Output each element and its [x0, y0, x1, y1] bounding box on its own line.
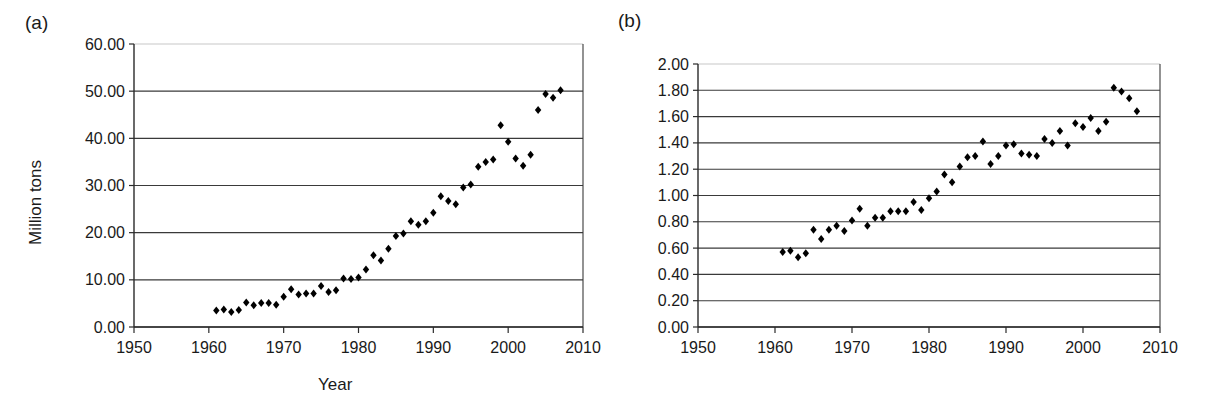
data-point	[273, 301, 279, 309]
data-point	[857, 205, 863, 213]
data-point	[430, 209, 436, 217]
data-point	[972, 152, 978, 160]
svg-text:0.60: 0.60	[658, 240, 689, 257]
data-point	[934, 188, 940, 196]
data-point	[810, 226, 816, 234]
svg-text:0.00: 0.00	[94, 319, 125, 336]
data-point	[1034, 152, 1040, 160]
svg-text:2000: 2000	[1065, 339, 1101, 356]
data-point	[872, 214, 878, 222]
figure-container: (a) Million tons Year 0.0010.0020.0030.0…	[0, 0, 1221, 410]
data-point	[995, 152, 1001, 160]
svg-text:60.00: 60.00	[85, 36, 125, 53]
data-point	[895, 207, 901, 215]
data-point	[408, 217, 414, 225]
data-point	[880, 214, 886, 222]
svg-text:50.00: 50.00	[85, 83, 125, 100]
data-point	[385, 245, 391, 253]
data-point	[903, 207, 909, 215]
data-point	[445, 197, 451, 205]
data-point	[318, 282, 324, 290]
svg-text:0.40: 0.40	[658, 266, 689, 283]
svg-text:1960: 1960	[191, 339, 227, 356]
data-point	[348, 275, 354, 283]
data-point	[1126, 94, 1132, 102]
data-point	[1095, 127, 1101, 135]
data-point	[363, 265, 369, 273]
data-point	[310, 290, 316, 298]
data-point	[400, 230, 406, 238]
data-point	[1072, 119, 1078, 127]
data-point	[1049, 139, 1055, 147]
data-point	[833, 222, 839, 230]
svg-text:1990: 1990	[988, 339, 1024, 356]
data-point	[795, 253, 801, 261]
data-point	[1118, 88, 1124, 96]
svg-text:0.20: 0.20	[658, 292, 689, 309]
data-point	[236, 306, 242, 314]
data-point	[987, 160, 993, 168]
data-point	[280, 293, 286, 301]
svg-text:2000: 2000	[490, 339, 526, 356]
data-point	[780, 248, 786, 256]
data-point	[266, 299, 272, 307]
data-point	[468, 181, 474, 189]
chart-panel-a: (a) Million tons Year 0.0010.0020.0030.0…	[0, 0, 610, 410]
svg-text:1980: 1980	[911, 339, 947, 356]
data-point	[370, 251, 376, 259]
svg-text:40.00: 40.00	[85, 130, 125, 147]
data-point	[251, 301, 257, 309]
data-point	[864, 222, 870, 230]
svg-text:1.80: 1.80	[658, 82, 689, 99]
data-point	[949, 178, 955, 186]
data-point	[535, 106, 541, 114]
svg-text:1.20: 1.20	[658, 161, 689, 178]
data-point	[527, 151, 533, 159]
svg-text:1960: 1960	[757, 339, 793, 356]
scatter-plot-b: 0.000.200.400.600.801.001.201.401.601.80…	[610, 0, 1221, 410]
data-point	[557, 86, 563, 94]
data-point	[475, 163, 481, 171]
svg-text:1.60: 1.60	[658, 108, 689, 125]
data-point	[258, 299, 264, 307]
svg-text:1.40: 1.40	[658, 134, 689, 151]
scatter-plot-a: 0.0010.0020.0030.0040.0050.0060.00195019…	[0, 0, 610, 410]
data-point	[1134, 107, 1140, 115]
data-point	[221, 306, 227, 314]
data-point	[826, 226, 832, 234]
data-point	[803, 249, 809, 257]
svg-text:1980: 1980	[341, 339, 377, 356]
data-point	[295, 290, 301, 298]
svg-text:0.00: 0.00	[658, 319, 689, 336]
data-point	[460, 183, 466, 191]
svg-text:30.00: 30.00	[85, 177, 125, 194]
svg-text:2010: 2010	[1142, 339, 1178, 356]
data-point	[415, 221, 421, 229]
data-point	[228, 308, 234, 316]
data-point	[910, 198, 916, 206]
data-point	[964, 153, 970, 161]
data-point	[1103, 118, 1109, 126]
data-point	[438, 192, 444, 200]
data-point	[453, 200, 459, 208]
data-point	[423, 217, 429, 225]
data-point	[497, 121, 503, 129]
data-point	[1011, 140, 1017, 148]
svg-text:1.00: 1.00	[658, 187, 689, 204]
data-point	[512, 155, 518, 163]
data-point	[483, 158, 489, 166]
data-point	[243, 298, 249, 306]
svg-text:1950: 1950	[116, 339, 152, 356]
data-point	[490, 156, 496, 164]
data-point	[1026, 151, 1032, 159]
data-point	[1080, 123, 1086, 131]
svg-text:1950: 1950	[680, 339, 716, 356]
svg-text:10.00: 10.00	[85, 271, 125, 288]
data-point	[333, 286, 339, 294]
data-point	[818, 235, 824, 243]
data-point	[887, 207, 893, 215]
svg-text:20.00: 20.00	[85, 224, 125, 241]
data-point	[941, 170, 947, 178]
chart-panel-b: (b) tons/ha Year 0.000.200.400.600.801.0…	[610, 0, 1221, 410]
data-point	[288, 285, 294, 293]
